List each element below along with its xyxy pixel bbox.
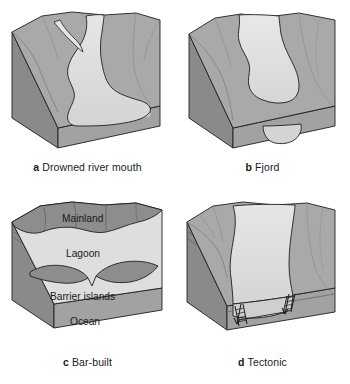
panel-d-artwork [175, 192, 350, 357]
panel-bar-built: Mainland Lagoon Barrier islands Ocean cB… [0, 192, 175, 384]
panel-c-artwork: Mainland Lagoon Barrier islands Ocean [0, 192, 175, 357]
panel-tectonic: dTectonic [175, 192, 350, 384]
panel-a-letter: a [33, 161, 39, 173]
panel-a-artwork [0, 0, 175, 165]
panel-d-caption: dTectonic [175, 356, 350, 368]
label-lagoon: Lagoon [66, 248, 100, 259]
panel-a-label: Drowned river mouth [42, 161, 141, 173]
panel-b-label: Fjord [255, 161, 279, 173]
panel-b-letter: b [246, 161, 253, 173]
panel-c-letter: c [63, 356, 69, 368]
panel-d-letter: d [238, 356, 245, 368]
panel-d-label: Tectonic [248, 356, 287, 368]
label-ocean: Ocean [70, 316, 100, 327]
label-mainland: Mainland [62, 213, 104, 224]
panel-b-artwork [175, 0, 350, 165]
estuary-types-figure: aDrowned river mouth [0, 0, 350, 384]
panel-c-label: Bar-built [72, 356, 112, 368]
panel-b-caption: bFjord [175, 161, 350, 173]
panel-fjord: bFjord [175, 0, 350, 192]
panel-a-caption: aDrowned river mouth [0, 161, 175, 173]
label-barrier-islands: Barrier islands [50, 291, 115, 302]
panel-c-caption: cBar-built [0, 356, 175, 368]
panel-drowned-river-mouth: aDrowned river mouth [0, 0, 175, 192]
